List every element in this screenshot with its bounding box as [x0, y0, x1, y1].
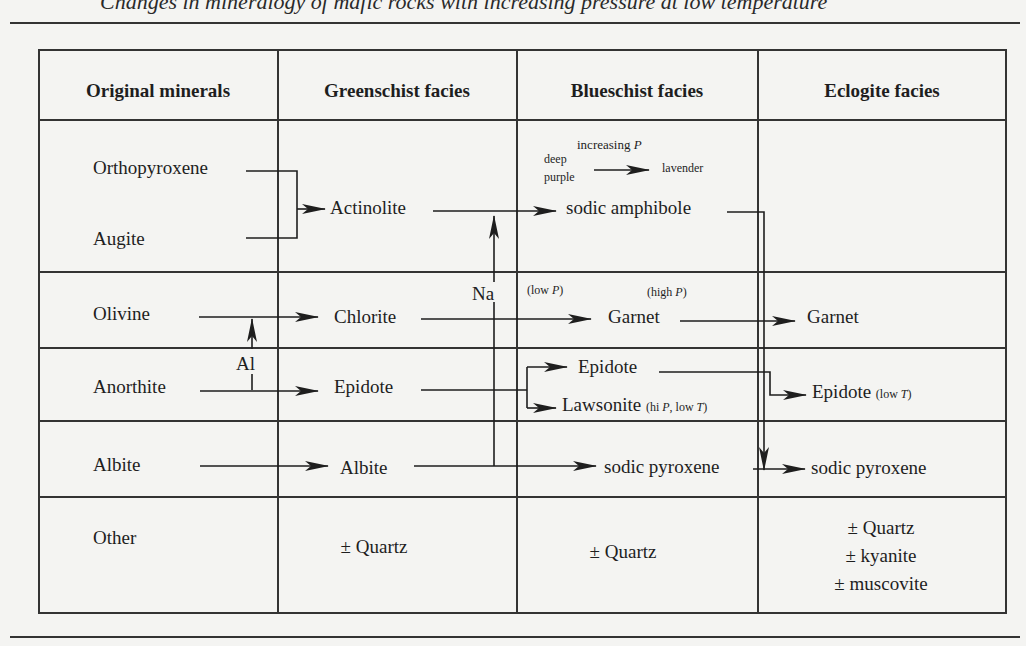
reaction-arrows	[0, 0, 1026, 646]
